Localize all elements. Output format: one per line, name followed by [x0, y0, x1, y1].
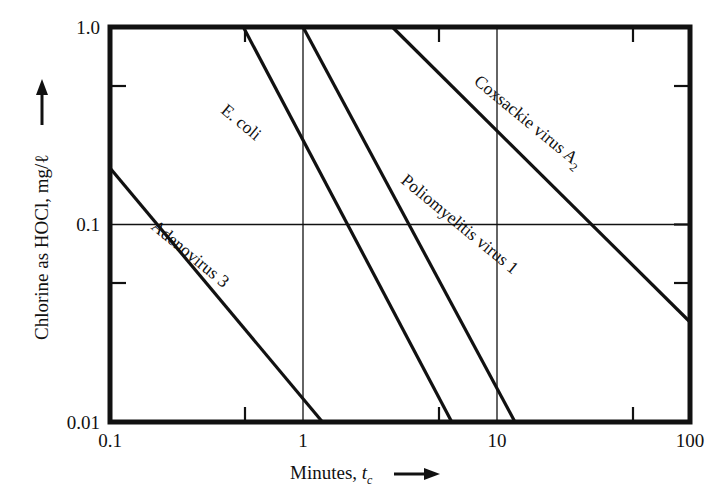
chart-figure: Adenovirus 3 E. coli Poliomyelitis virus…: [0, 0, 723, 500]
y-tick-label-1: 0.1: [76, 214, 100, 235]
x-tick-label-3: 100: [676, 430, 705, 451]
chart-svg: Adenovirus 3 E. coli Poliomyelitis virus…: [0, 0, 723, 500]
y-tick-label-0: 1.0: [76, 17, 100, 38]
x-axis-title-main: Minutes,: [290, 462, 357, 483]
x-tick-label-2: 10: [488, 430, 507, 451]
x-tick-label-1: 1: [298, 430, 308, 451]
x-tick-label-0: 0.1: [98, 430, 122, 451]
x-axis-title-subscript: c: [367, 473, 373, 487]
y-axis-title-unit: ℓ: [31, 155, 52, 164]
y-tick-label-2: 0.01: [67, 412, 100, 433]
y-axis-title-text: Chlorine as HOCl, mg/ℓ: [31, 155, 52, 340]
y-axis-title-main: Chlorine as HOCl, mg/: [31, 163, 52, 340]
